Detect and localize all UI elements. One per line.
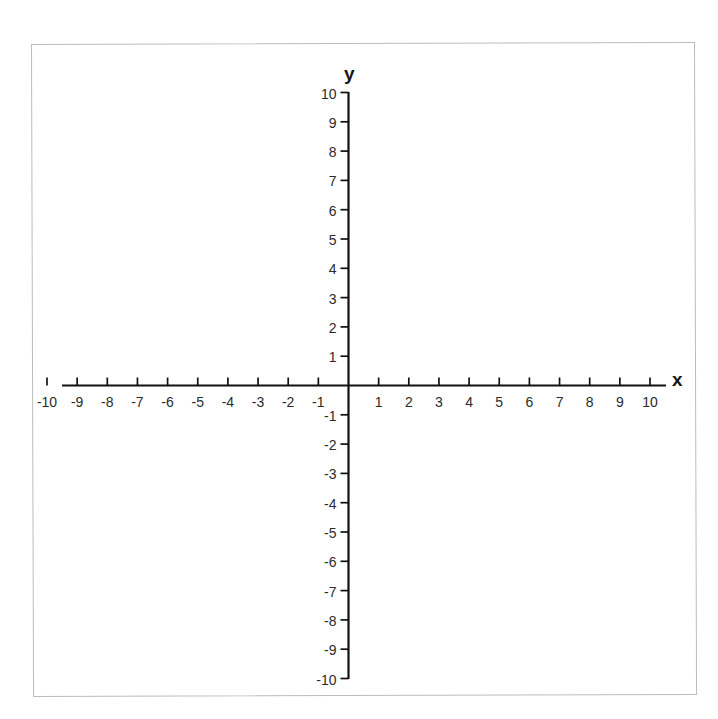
- y-tick-label: 7: [297, 174, 337, 188]
- y-tick-label: 4: [297, 262, 337, 276]
- axes-svg: [0, 0, 718, 719]
- y-tick-label: 2: [297, 321, 337, 335]
- x-tick-label: 10: [630, 395, 670, 409]
- y-tick-label: 9: [297, 116, 337, 130]
- y-tick-label: 1: [297, 350, 337, 364]
- y-tick-label: 5: [297, 233, 337, 247]
- x-axis-label: x: [672, 370, 683, 389]
- y-tick-label: -9: [297, 643, 337, 657]
- y-axis-label: y: [344, 64, 355, 83]
- y-tick-label: -4: [297, 497, 337, 511]
- y-tick-label: 8: [297, 145, 337, 159]
- y-tick-label: 3: [297, 292, 337, 306]
- y-tick-label: -2: [297, 438, 337, 452]
- y-tick-label: -10: [297, 673, 337, 687]
- x-tick-label: -1: [298, 395, 338, 409]
- coordinate-plane-figure: y x -10-9-8-7-6-5-4-3-2-112345678910 109…: [0, 0, 718, 719]
- y-tick-label: -6: [297, 555, 337, 569]
- y-tick-label: -8: [297, 614, 337, 628]
- y-tick-label: -1: [297, 409, 337, 423]
- y-tick-label: 6: [297, 204, 337, 218]
- y-tick-label: -5: [297, 526, 337, 540]
- y-tick-label: 10: [297, 87, 337, 101]
- y-tick-label: -3: [297, 467, 337, 481]
- y-tick-label: -7: [297, 585, 337, 599]
